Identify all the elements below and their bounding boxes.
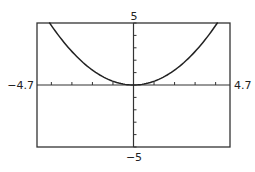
- xmax-label: 4.7: [234, 79, 252, 92]
- ymin-label: −5: [126, 151, 142, 164]
- graph: 5 −5 −4.7 4.7: [0, 0, 255, 172]
- ymax-label: 5: [131, 10, 138, 23]
- xmin-label: −4.7: [7, 79, 34, 92]
